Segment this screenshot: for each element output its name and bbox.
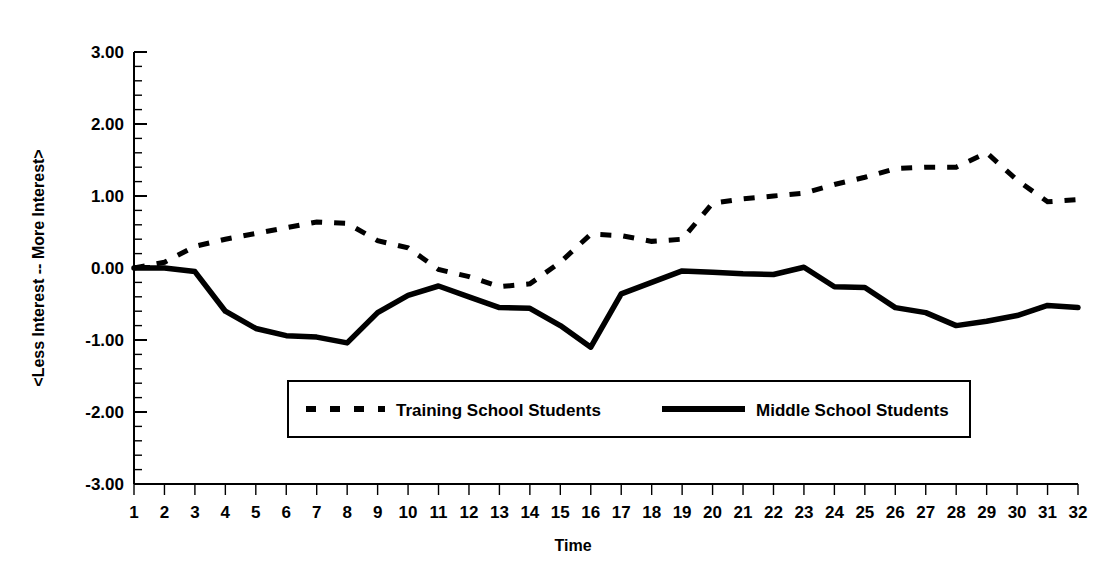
x-tick-label: 26: [886, 503, 905, 522]
x-tick-label: 30: [1008, 503, 1027, 522]
x-tick-label: 4: [221, 503, 231, 522]
chart-container: 3.002.001.000.00-1.00-2.00-3.00 12345678…: [0, 0, 1119, 586]
y-tick-label: 0.00: [91, 259, 124, 278]
line-chart: 3.002.001.000.00-1.00-2.00-3.00 12345678…: [0, 0, 1119, 586]
x-tick-label: 15: [551, 503, 570, 522]
x-tick-label: 22: [764, 503, 783, 522]
x-tick-label: 21: [734, 503, 753, 522]
x-tick-label: 2: [160, 503, 169, 522]
legend-item-label-1: Middle School Students: [756, 401, 949, 420]
x-tick-label: 1: [129, 503, 138, 522]
x-tick-label: 8: [342, 503, 351, 522]
x-axis-title: Time: [554, 537, 591, 554]
x-tick-label: 13: [490, 503, 509, 522]
chart-legend: Training School Students Middle School S…: [288, 381, 970, 437]
y-tick-label: -3.00: [85, 475, 124, 494]
x-tick-label: 29: [977, 503, 996, 522]
x-tick-label: 14: [520, 503, 539, 522]
y-tick-label: -2.00: [85, 403, 124, 422]
x-tick-label: 19: [673, 503, 692, 522]
x-tick-label: 18: [642, 503, 661, 522]
x-tick-label: 16: [581, 503, 600, 522]
y-tick-label: 3.00: [91, 43, 124, 62]
x-tick-label: 10: [399, 503, 418, 522]
x-tick-label: 24: [825, 503, 844, 522]
y-tick-label: -1.00: [85, 331, 124, 350]
x-tick-label: 12: [460, 503, 479, 522]
x-tick-label: 25: [855, 503, 874, 522]
x-tick-label: 5: [251, 503, 260, 522]
x-tick-label: 32: [1069, 503, 1088, 522]
x-tick-label: 28: [947, 503, 966, 522]
x-tick-label: 27: [916, 503, 935, 522]
x-tick-label: 17: [612, 503, 631, 522]
y-axis-title: <Less Interest -- More Interest>: [30, 149, 47, 386]
x-tick-label: 3: [190, 503, 199, 522]
x-tick-label: 11: [430, 503, 448, 522]
y-tick-label: 2.00: [91, 115, 124, 134]
x-tick-label: 7: [312, 503, 321, 522]
legend-item-label-0: Training School Students: [396, 401, 601, 420]
x-tick-label: 20: [703, 503, 722, 522]
x-tick-label: 9: [373, 503, 382, 522]
x-tick-label: 23: [794, 503, 813, 522]
chart-background: [0, 0, 1119, 586]
x-tick-label: 6: [282, 503, 291, 522]
y-tick-label: 1.00: [91, 187, 124, 206]
x-tick-label: 31: [1038, 503, 1057, 522]
